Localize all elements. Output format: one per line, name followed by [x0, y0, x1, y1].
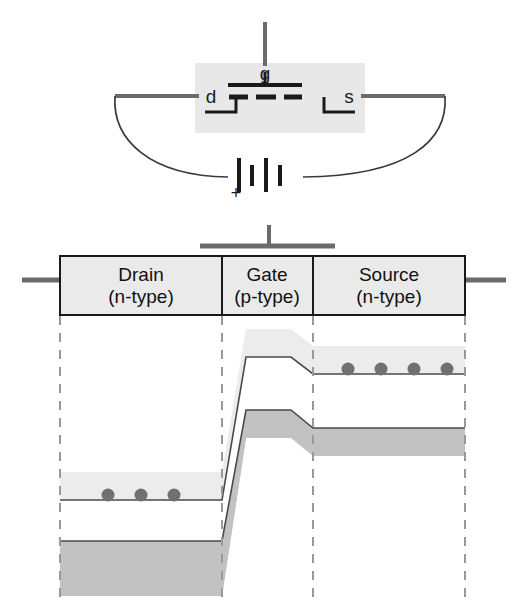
- region-label-drain-doping: (n-type): [108, 286, 173, 307]
- mosfet-band-diagram-figure: d g s +: [0, 0, 530, 601]
- device-region-bar: Drain (n-type) Gate (p-type) Source (n-t…: [22, 225, 506, 315]
- electron-dot: [102, 489, 115, 502]
- region-label-gate-name: Gate: [246, 264, 287, 285]
- source-terminal-label: s: [344, 86, 354, 107]
- battery-polarity-label: +: [231, 183, 242, 203]
- drain-terminal-label: d: [206, 86, 217, 107]
- transistor-body-box: [195, 63, 365, 133]
- figure-canvas: d g s +: [0, 0, 530, 601]
- electron-dot: [375, 363, 388, 376]
- electron-dot: [135, 489, 148, 502]
- region-label-source-name: Source: [359, 264, 419, 285]
- electron-dot: [408, 363, 421, 376]
- electron-dot: [342, 363, 355, 376]
- circuit-schematic: d g s +: [115, 22, 445, 203]
- band-diagram: [60, 316, 465, 597]
- region-label-drain-name: Drain: [118, 264, 163, 285]
- region-label-gate-doping: (p-type): [234, 286, 299, 307]
- valence-band-deep-fill-drain: [60, 410, 246, 596]
- gate-terminal-label: g: [260, 63, 271, 84]
- region-label-source-doping: (n-type): [356, 286, 421, 307]
- electron-dot: [441, 363, 454, 376]
- electron-dot: [168, 489, 181, 502]
